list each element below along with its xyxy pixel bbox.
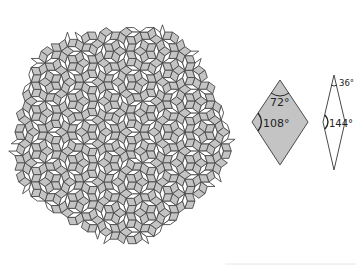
penrose-tiling (9, 25, 235, 244)
figure-canvas: 72° 108° 36° 144° (0, 0, 360, 266)
angle-label-36: 36° (339, 78, 354, 88)
thin-rhombus-legend: 36° 144° (323, 75, 354, 170)
angle-label-144: 144° (329, 118, 353, 129)
angle-label-108: 108° (263, 117, 290, 130)
angle-label-72: 72° (270, 96, 290, 109)
thick-rhombus-legend: 72° 108° (252, 80, 308, 165)
